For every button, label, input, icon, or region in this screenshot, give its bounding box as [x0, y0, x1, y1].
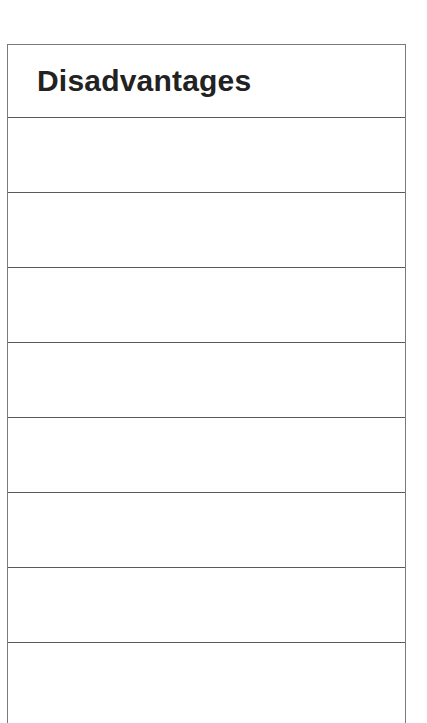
table-row[interactable] — [8, 418, 405, 493]
table-row[interactable] — [8, 568, 405, 643]
disadvantages-table: Disadvantages — [7, 44, 406, 723]
table-row[interactable] — [8, 343, 405, 418]
table-header: Disadvantages — [8, 45, 405, 118]
table-row[interactable] — [8, 118, 405, 193]
table-row[interactable] — [8, 493, 405, 568]
table-title: Disadvantages — [37, 64, 251, 98]
table-row[interactable] — [8, 193, 405, 268]
table-row[interactable] — [8, 268, 405, 343]
table-row[interactable] — [8, 643, 405, 723]
